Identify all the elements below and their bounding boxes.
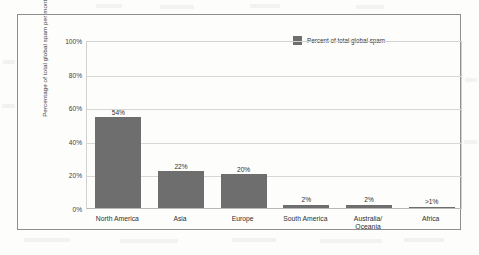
bar-group: 2%	[275, 42, 338, 208]
x-tick-label-south-america: South America	[274, 215, 337, 223]
bar-group: >1%	[400, 42, 463, 208]
bar-group: 54%	[87, 42, 150, 208]
scanned-page: Percentage of total global spam per mont…	[0, 0, 479, 255]
bar-value-label: 2%	[302, 196, 312, 203]
x-tick-label-africa: Africa	[399, 215, 462, 223]
y-axis-title: Percentage of total global spam per mont…	[41, 0, 48, 142]
bar-asia[interactable]	[158, 171, 204, 208]
y-tick-label: 20%	[54, 172, 82, 179]
y-tick-label: 0%	[54, 206, 82, 213]
y-tick-label: 80%	[54, 71, 82, 78]
y-tick-label: 100%	[54, 38, 82, 45]
bar-group: 20%	[212, 42, 275, 208]
x-tick-label-asia: Asia	[149, 215, 212, 223]
paper-bleed-artifact	[3, 60, 15, 64]
x-tick-label-europe: Europe	[211, 215, 274, 223]
bar-south-america[interactable]	[283, 205, 329, 208]
plot-area: 54% 22% 20% 2% 2% >1%	[86, 41, 462, 209]
paper-bleed-artifact	[160, 5, 194, 9]
bar-africa[interactable]	[409, 207, 455, 209]
bar-north-america[interactable]	[95, 117, 141, 208]
paper-bleed-artifact	[465, 78, 477, 82]
paper-bleed-artifact	[24, 238, 70, 242]
paper-bleed-artifact	[464, 140, 477, 144]
paper-bleed-artifact	[250, 4, 280, 8]
chart-figure-frame: Percentage of total global spam per mont…	[17, 14, 461, 230]
bar-value-label: >1%	[425, 198, 438, 205]
paper-bleed-artifact	[96, 4, 122, 8]
paper-bleed-artifact	[320, 239, 382, 243]
x-tick-label-australia-oceania: Australia/ Oceania	[337, 215, 400, 232]
y-tick-label: 40%	[54, 138, 82, 145]
bar-value-label: 20%	[237, 166, 250, 173]
bar-group: 2%	[338, 42, 401, 208]
y-tick-label: 60%	[54, 105, 82, 112]
bar-value-label: 54%	[112, 109, 125, 116]
bar-australia-oceania[interactable]	[346, 205, 392, 208]
paper-bleed-artifact	[356, 5, 384, 9]
paper-bleed-artifact	[232, 238, 276, 242]
paper-bleed-artifact	[120, 239, 178, 243]
paper-bleed-artifact	[2, 104, 15, 108]
bar-value-label: 22%	[174, 163, 187, 170]
paper-bleed-artifact	[404, 238, 444, 242]
y-axis-ticks: 100% 80% 60% 40% 20% 0%	[54, 41, 82, 209]
bar-group: 22%	[150, 42, 213, 208]
bar-europe[interactable]	[221, 174, 267, 208]
bar-value-label: 2%	[364, 196, 374, 203]
x-tick-label-north-america: North America	[86, 215, 149, 223]
